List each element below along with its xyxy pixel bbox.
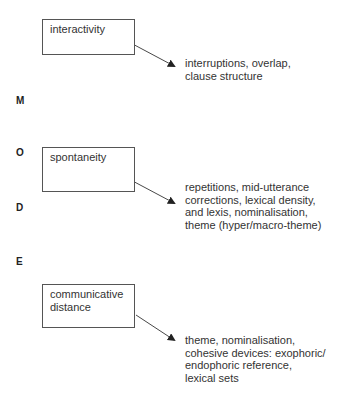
- feature-line: clause structure: [185, 70, 291, 83]
- dimension-box-interactivity: interactivity: [42, 19, 135, 55]
- features-interactivity: interruptions, overlap,clause structure: [185, 57, 291, 82]
- feature-line: interruptions, overlap,: [185, 57, 291, 70]
- feature-line: corrections, lexical density,: [185, 194, 321, 207]
- dimension-box-spontaneity: spontaneity: [42, 147, 135, 192]
- dimension-label-line: distance: [50, 301, 127, 314]
- feature-line: cohesive devices: exophoric/: [185, 347, 326, 360]
- feature-line: theme, nominalisation,: [185, 334, 326, 347]
- mode-letter-m: M: [16, 95, 24, 107]
- feature-line: repetitions, mid-utterance: [185, 181, 321, 194]
- dimension-label: interactivity: [50, 23, 105, 35]
- mode-letter-o: O: [16, 147, 24, 159]
- dimension-label-line: communicative: [50, 288, 127, 301]
- feature-line: and lexis, nominalisation,: [185, 206, 321, 219]
- mode-letter-d: D: [16, 202, 23, 214]
- feature-line: theme (hyper/macro-theme): [185, 219, 321, 232]
- mode-letter-e: E: [16, 256, 23, 268]
- dimension-label: spontaneity: [50, 151, 106, 163]
- features-communicative-distance: theme, nominalisation,cohesive devices: …: [185, 334, 326, 384]
- features-spontaneity: repetitions, mid-utterancecorrections, l…: [185, 181, 321, 231]
- dimension-box-communicative-distance: communicative distance: [42, 284, 135, 328]
- feature-line: lexical sets: [185, 372, 326, 385]
- feature-line: endophoric reference,: [185, 359, 326, 372]
- arrow-communicative-distance: [136, 315, 174, 340]
